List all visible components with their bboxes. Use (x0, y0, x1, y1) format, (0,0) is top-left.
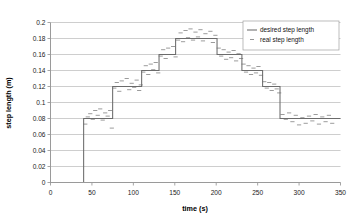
x-axis-ticks: 050100150200250300350 (49, 183, 347, 196)
x-tick-label: 0 (49, 189, 53, 196)
y-tick-label: 0.1 (36, 99, 45, 106)
legend-label: desired step length (260, 26, 314, 34)
chart-canvas: 00.020.040.060.080.10.120.140.160.180.2 … (0, 0, 349, 218)
x-tick-label: 50 (88, 189, 96, 196)
step-length-chart: 00.020.040.060.080.10.120.140.160.180.2 … (0, 0, 349, 218)
x-tick-label: 250 (252, 189, 263, 196)
x-axis-title: time (s) (182, 204, 208, 213)
x-tick-label: 350 (335, 189, 346, 196)
chart-legend: desired step lengthreal step length (243, 21, 339, 50)
y-tick-label: 0.16 (33, 51, 46, 58)
y-tick-label: 0.02 (33, 163, 46, 170)
y-tick-label: 0.06 (33, 131, 46, 138)
x-tick-label: 200 (211, 189, 222, 196)
y-axis-ticks: 00.020.040.060.080.10.120.140.160.180.2 (33, 19, 51, 186)
y-tick-label: 0.2 (36, 19, 45, 26)
y-tick-label: 0.04 (33, 147, 46, 154)
y-tick-label: 0.18 (33, 35, 46, 42)
x-tick-label: 150 (169, 189, 180, 196)
x-tick-label: 300 (294, 189, 305, 196)
legend-label: real step length (260, 36, 304, 44)
x-tick-label: 100 (128, 189, 139, 196)
y-tick-label: 0 (42, 179, 46, 186)
y-tick-label: 0.14 (33, 67, 46, 74)
y-axis-title: step length (m) (4, 77, 13, 129)
y-tick-label: 0.12 (33, 83, 46, 90)
y-tick-label: 0.08 (33, 115, 46, 122)
